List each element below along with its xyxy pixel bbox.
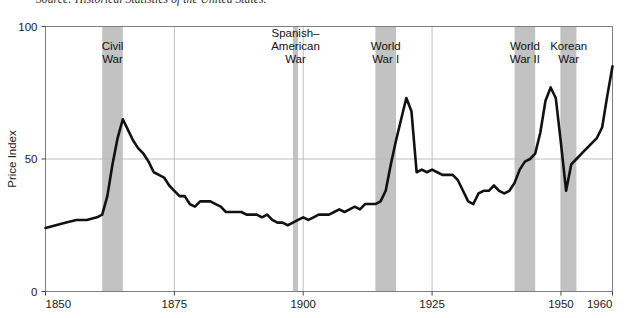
x-tick-label-0: 1850 — [46, 298, 72, 310]
war-band-label-0-line-0: Civil — [102, 40, 124, 52]
y-tick-label-2: 100 — [18, 21, 37, 33]
y-tick-label-1: 50 — [25, 153, 38, 165]
war-band-label-4-line-0: Korean — [550, 40, 587, 52]
x-tick-label-5: 1960 — [587, 298, 613, 310]
y-tick-label-0: 0 — [31, 286, 37, 298]
war-band-label-1-line-1: American — [271, 40, 320, 52]
war-band-label-1-line-0: Spanish– — [272, 27, 321, 39]
war-band-label-3-line-1: War II — [510, 53, 540, 65]
x-tick-label-1: 1875 — [162, 298, 188, 310]
x-tick-label-2: 1900 — [290, 298, 316, 310]
war-band-label-2-line-1: War I — [372, 53, 399, 65]
y-axis-title: Price Index — [6, 130, 18, 188]
x-tick-label-4: 1950 — [548, 298, 574, 310]
y-axis-title-text: Price Index — [6, 130, 18, 188]
x-tick-label-3: 1925 — [419, 298, 445, 310]
war-band-label-4-line-1: War — [558, 53, 579, 65]
war-band-label-1-line-2: War — [285, 53, 306, 65]
war-band-label-2-line-0: World — [371, 40, 401, 52]
figure-root: Source: Historical Statistics of the Uni… — [0, 0, 625, 318]
war-band-label-0-line-1: War — [102, 53, 123, 65]
war-band-label-3-line-0: World — [510, 40, 540, 52]
price-index-line-chart: 050100185018751900192519501960 CivilWarS… — [0, 0, 625, 318]
